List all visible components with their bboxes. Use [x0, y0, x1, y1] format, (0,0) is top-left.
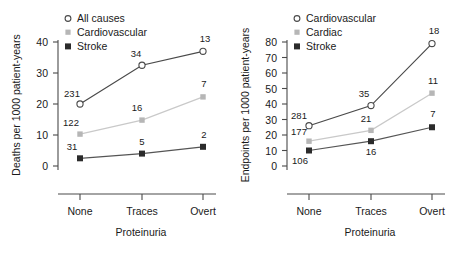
left-xtick-none: None: [67, 205, 92, 217]
right-label-cardiovascular-traces: 35: [359, 88, 370, 99]
right-label-cardiac-none: 177: [291, 126, 307, 137]
right-legend-marker-gray-square: [294, 30, 299, 35]
right-y-axis-title: Endpoints per 1000 patient-years: [239, 28, 251, 183]
left-ytick-40: 40: [36, 36, 48, 48]
left-ytick-0: 0: [42, 160, 48, 172]
left-xtick-overt: Overt: [190, 205, 216, 217]
right-label-cardiovascular-overt: 18: [429, 25, 440, 36]
right-legend-marker-black-square: [294, 43, 300, 49]
left-legend-marker-open-circle: [65, 16, 71, 22]
left-legend-marker-black-square: [65, 43, 71, 49]
right-ytick-30: 30: [265, 114, 277, 126]
right-label-cardiac-traces: 21: [361, 113, 372, 124]
right-ytick-0: 0: [271, 160, 277, 172]
right-label-stroke-none: 106: [292, 155, 308, 166]
right-ytick-10: 10: [265, 145, 277, 157]
left-ytick-30: 30: [36, 67, 48, 79]
right-label-stroke-overt: 7: [430, 108, 435, 119]
right-x-axis-title: Proteinuria: [345, 226, 396, 238]
left-chart-svg: 0 10 20 30 40 None Traces Overt Proteinu…: [0, 0, 229, 257]
right-legend: Cardiovascular Cardiac Stroke: [294, 12, 377, 52]
right-legend-marker-open-circle: [294, 16, 300, 22]
right-label-stroke-traces: 16: [366, 146, 377, 157]
right-legend-label-cardiac: Cardiac: [306, 26, 342, 38]
right-ytick-50: 50: [265, 83, 277, 95]
left-y-axis-title: Deaths per 1000 patient-years: [10, 34, 22, 175]
right-ytick-40: 40: [265, 98, 277, 110]
left-label-stroke-overt: 2: [201, 129, 206, 140]
right-y-ticks: [282, 42, 287, 166]
chart-panel-endpoints: 0 10 20 30 40 50 60 70 80 None Traces Ov…: [229, 0, 458, 257]
right-ytick-20: 20: [265, 129, 277, 141]
left-legend-label-all-causes: All causes: [77, 12, 125, 24]
left-series-all-causes-markers: [77, 48, 206, 107]
right-legend-label-cardiovascular: Cardiovascular: [306, 12, 377, 24]
right-ytick-70: 70: [265, 52, 277, 64]
left-label-stroke-none: 31: [67, 141, 78, 152]
left-label-all-causes-overt: 13: [200, 33, 211, 44]
chart-panel-deaths: 0 10 20 30 40 None Traces Overt Proteinu…: [0, 0, 229, 257]
left-y-ticks: [53, 42, 58, 166]
left-x-axis-title: Proteinuria: [116, 226, 167, 238]
right-xtick-overt: Overt: [419, 205, 445, 217]
right-ytick-60: 60: [265, 67, 277, 79]
left-xtick-traces: Traces: [126, 205, 158, 217]
right-label-cardiovascular-none: 281: [291, 110, 307, 121]
right-ytick-80: 80: [265, 36, 277, 48]
left-label-cardiovascular-overt: 7: [201, 78, 206, 89]
left-series-all-causes-line: [80, 51, 203, 104]
left-label-all-causes-traces: 34: [131, 48, 142, 59]
right-legend-label-stroke: Stroke: [306, 40, 337, 52]
left-label-all-causes-none: 231: [64, 88, 80, 99]
left-label-cardiovascular-none: 122: [63, 117, 79, 128]
right-xtick-traces: Traces: [355, 205, 387, 217]
left-legend-marker-gray-square: [65, 30, 70, 35]
left-legend-label-stroke: Stroke: [77, 40, 108, 52]
left-label-stroke-traces: 5: [139, 136, 144, 147]
right-xtick-none: None: [296, 205, 321, 217]
left-ytick-20: 20: [36, 98, 48, 110]
right-chart-svg: 0 10 20 30 40 50 60 70 80 None Traces Ov…: [229, 0, 458, 257]
right-label-cardiac-overt: 11: [428, 75, 438, 86]
left-legend-label-cardiovascular: Cardiovascular: [77, 26, 148, 38]
left-x-ticks: [80, 194, 203, 200]
left-ytick-10: 10: [36, 129, 48, 141]
figure-two-panel-line-charts: 0 10 20 30 40 None Traces Overt Proteinu…: [0, 0, 458, 257]
left-legend: All causes Cardiovascular Stroke: [65, 12, 148, 52]
left-label-cardiovascular-traces: 16: [132, 102, 143, 113]
right-x-ticks: [309, 194, 432, 200]
